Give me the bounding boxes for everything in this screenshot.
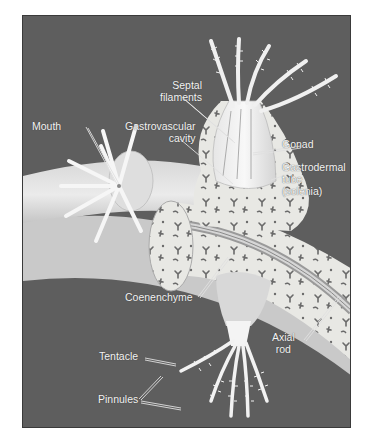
label-coenenchyme: Coenenchyme [125,291,193,303]
label-axial-rod: Axial rod [272,331,295,355]
label-gonad: Gonad [282,138,314,150]
lower-polyp-tentacles [181,341,267,416]
mouth-opening [117,184,121,188]
octocoral-illustration [23,16,351,428]
label-gv-line1: Gastrovascular [125,120,196,132]
label-gt-line3: (solenia) [282,185,346,197]
label-axial-line1: Axial [272,331,295,343]
label-gt-line2: tube [282,173,346,185]
label-septal-line2: filaments [160,91,202,103]
illustration-frame [22,15,351,428]
label-gastrovascular-cavity: Gastrovascular cavity [125,120,196,144]
label-mouth: Mouth [32,120,61,132]
label-septal-line1: Septal [160,79,202,91]
label-axial-line2: rod [272,343,295,355]
upper-polyp-tentacles [211,39,336,111]
label-gv-line2: cavity [125,132,196,144]
label-pinnules: Pinnules [98,393,138,405]
label-tentacle: Tentacle [99,350,138,362]
branch-cross-section [149,201,193,291]
label-gastrodermal-tube: Gastrodermal tube (solenia) [282,161,346,197]
label-septal-filaments: Septal filaments [160,79,202,103]
label-gt-line1: Gastrodermal [282,161,346,173]
